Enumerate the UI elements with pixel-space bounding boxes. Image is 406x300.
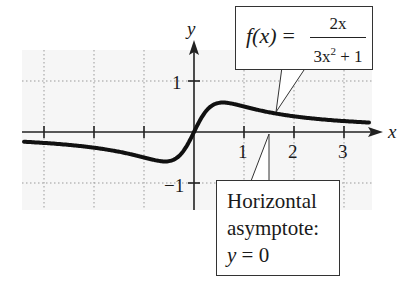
x-tick-label-1: 1 [238, 141, 248, 162]
formula-fraction: 2x 3x2 + 1 [310, 13, 366, 62]
asymptote-variable: y [227, 243, 236, 267]
function-name: f(x) [246, 23, 277, 48]
fraction-bar [310, 37, 366, 38]
asymptote-callout: Horizontal asymptote: y = 0 [216, 180, 340, 276]
y-tick-label-neg1: −1 [164, 175, 184, 196]
formula-lhs: f(x)= [246, 23, 295, 49]
y-tick-label-1: 1 [172, 72, 182, 93]
equals-sign: = [283, 23, 295, 48]
x-tick-label-2: 2 [288, 141, 298, 162]
denominator: 3x2 + 1 [310, 40, 366, 62]
asymptote-line-1: Horizontal [227, 188, 339, 215]
y-axis-label: y [185, 18, 196, 39]
denominator-rest: + 1 [336, 47, 363, 66]
formula-callout: f(x)= 2x 3x2 + 1 [235, 6, 373, 70]
numerator: 2x [310, 13, 366, 35]
asymptote-value: = 0 [236, 243, 269, 267]
asymptote-line-3: y = 0 [227, 242, 339, 269]
denominator-base: 3x [313, 47, 330, 66]
x-axis-label: x [387, 121, 397, 142]
asymptote-line-2: asymptote: [227, 215, 339, 242]
x-tick-label-3: 3 [338, 141, 348, 162]
